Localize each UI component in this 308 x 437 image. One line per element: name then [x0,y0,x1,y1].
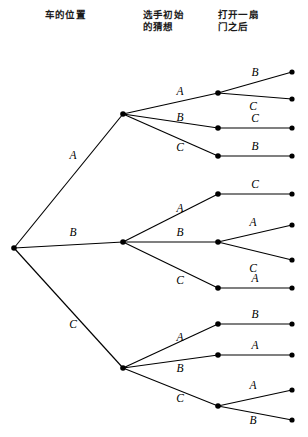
edge-label: C [251,178,259,190]
tree-node [289,257,294,262]
tree-node [215,125,221,131]
edge-label: A [249,216,256,228]
tree-edge [123,242,218,288]
tree-edge [14,242,123,248]
tree-node [289,96,294,101]
tree-edge [123,93,218,114]
edge-label: C [176,274,184,286]
tree-edge [123,368,218,406]
edge-label: A [176,202,183,214]
column-header-after-door-opened: 打开一扇 门之后 [218,9,259,32]
edges-group [14,72,292,420]
column-header-car-position: 车的位置 [45,9,86,21]
edge-label: A [176,85,183,97]
edge-label: A [251,272,258,284]
column-header-initial-guess: 选手初始 的猜想 [143,9,184,32]
edge-label: B [69,226,76,238]
edge-label: C [176,392,184,404]
edge-label: A [69,149,76,161]
tree-node [120,239,126,245]
edge-label: B [249,414,256,426]
edge-label: B [251,140,258,152]
edge-label: B [251,308,258,320]
tree-node [289,352,294,357]
tree-node [289,321,294,326]
tree-node [215,191,221,197]
tree-node [215,90,221,96]
tree-node [215,153,221,159]
tree-edge [218,93,292,99]
tree-node [289,69,294,74]
edge-label: B [176,362,183,374]
tree-node [120,365,126,371]
tree-node [215,321,221,327]
tree-node [289,417,294,422]
edge-label: B [251,66,258,78]
edge-label: B [176,111,183,123]
tree-edge [123,114,218,128]
edge-label: B [176,226,183,238]
tree-edge [123,194,218,242]
tree-node [289,191,294,196]
tree-node [215,403,221,409]
tree-edge [123,114,218,156]
tree-svg [0,0,308,437]
tree-node [215,352,221,358]
tree-node [215,239,221,245]
edge-label: A [251,339,258,351]
tree-node [289,387,294,392]
tree-node [289,222,294,227]
tree-node [11,245,17,251]
edge-label: C [69,318,77,330]
tree-node [215,285,221,291]
tree-edge [218,242,292,260]
edge-label: C [176,141,184,153]
tree-node [289,125,294,130]
tree-edge [14,248,123,368]
tree-node [289,153,294,158]
tree-node [120,111,126,117]
tree-node [289,285,294,290]
tree-diagram-canvas: 车的位置 选手初始 的猜想 打开一扇 门之后 ABCABCABCABCBCCBC… [0,0,308,437]
tree-edge [218,390,292,406]
edge-label: A [249,379,256,391]
edge-label: C [249,100,257,112]
edge-label: C [251,112,259,124]
edge-label: A [176,331,183,343]
